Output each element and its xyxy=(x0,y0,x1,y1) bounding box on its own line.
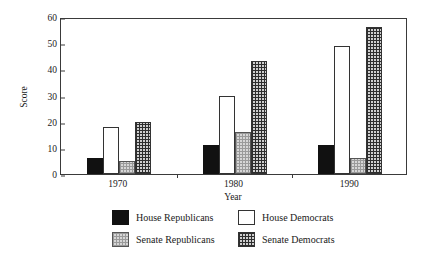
bar-house-republicans-1980 xyxy=(203,145,219,174)
y-tick-label: 0 xyxy=(52,171,57,181)
y-tick-label: 20 xyxy=(48,119,58,129)
legend-label: House Democrats xyxy=(262,213,333,223)
legend-label: Senate Republicans xyxy=(136,235,215,245)
y-tick-mark xyxy=(61,97,65,98)
bar-senate-democrats-1990 xyxy=(366,27,382,174)
x-tick-label: 1970 xyxy=(108,180,127,190)
x-axis-title: Year xyxy=(224,192,242,202)
legend-item-senate-democrats[interactable]: Senate Democrats xyxy=(238,232,344,247)
plot-area: 0102030405060 xyxy=(60,18,407,175)
y-tick-mark xyxy=(61,45,65,46)
legend-swatch-icon xyxy=(112,232,129,247)
bar-senate-democrats-1970 xyxy=(135,122,151,174)
bar-senate-republicans-1980 xyxy=(235,132,251,174)
y-tick-label: 50 xyxy=(48,40,58,50)
legend-label: House Republicans xyxy=(136,213,214,223)
bar-house-democrats-1970 xyxy=(103,127,119,174)
legend-label: Senate Democrats xyxy=(262,235,334,245)
x-tick-mark xyxy=(292,174,293,178)
y-tick-label: 10 xyxy=(48,145,58,155)
legend-item-house-democrats[interactable]: House Democrats xyxy=(238,210,344,225)
y-axis-title-area: Score xyxy=(18,18,32,175)
bar-house-republicans-1990 xyxy=(318,145,334,174)
legend-item-senate-republicans[interactable]: Senate Republicans xyxy=(112,232,224,247)
legend-swatch-icon xyxy=(238,210,255,225)
y-tick-mark xyxy=(61,19,65,20)
y-axis-title: Score xyxy=(19,86,29,108)
legend-item-house-republicans[interactable]: House Republicans xyxy=(112,210,224,225)
x-tick-label: 1990 xyxy=(340,180,359,190)
y-tick-mark xyxy=(61,71,65,72)
chart-figure: Score 0102030405060 197019801990 Year Ho… xyxy=(0,0,424,261)
bar-house-republicans-1970 xyxy=(87,158,103,174)
y-tick-mark xyxy=(61,149,65,150)
y-tick-mark xyxy=(61,123,65,124)
bar-senate-democrats-1980 xyxy=(251,61,267,174)
y-tick-label: 40 xyxy=(48,67,58,77)
bar-senate-republicans-1990 xyxy=(350,158,366,174)
x-tick-label: 1980 xyxy=(224,180,243,190)
bar-house-democrats-1990 xyxy=(334,46,350,174)
legend-swatch-icon xyxy=(238,232,255,247)
y-tick-label: 60 xyxy=(48,14,58,24)
bar-senate-republicans-1970 xyxy=(119,161,135,174)
y-tick-label: 30 xyxy=(48,93,58,103)
chart-legend: House RepublicansHouse DemocratsSenate R… xyxy=(112,210,344,247)
y-tick-mark xyxy=(61,176,65,177)
bar-house-democrats-1980 xyxy=(219,96,235,175)
legend-swatch-icon xyxy=(112,210,129,225)
x-tick-mark xyxy=(177,174,178,178)
